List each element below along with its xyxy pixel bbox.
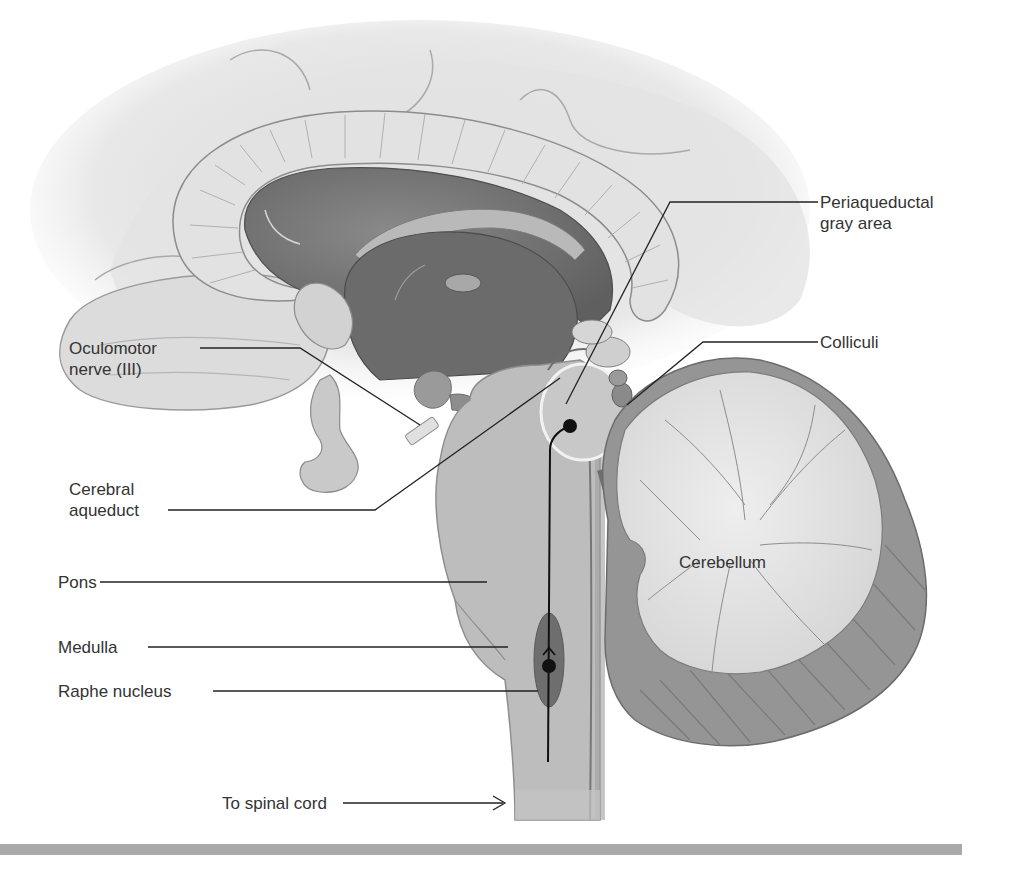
label-pons: Pons (58, 572, 97, 593)
label-spinal-cord-text: To spinal cord (222, 793, 327, 814)
label-cerebral-aqueduct: Cerebral aqueduct (69, 479, 139, 521)
label-periaqueductal-line2: gray area (820, 213, 933, 234)
label-colliculi: Colliculi (820, 332, 879, 353)
label-colliculi-text: Colliculi (820, 332, 879, 353)
label-raphe-nucleus: Raphe nucleus (58, 681, 171, 702)
label-oculomotor-line1: Oculomotor (69, 338, 157, 359)
label-cerebellum-text: Cerebellum (679, 552, 766, 573)
label-medulla: Medulla (58, 637, 118, 658)
label-pons-text: Pons (58, 572, 97, 593)
spinal-cord (515, 790, 600, 820)
oculomotor-nerve (405, 416, 440, 445)
label-cerebral-aqueduct-line2: aqueduct (69, 500, 139, 521)
label-raphe-text: Raphe nucleus (58, 681, 171, 702)
label-oculomotor-line2: nerve (III) (69, 359, 157, 380)
label-oculomotor-nerve: Oculomotor nerve (III) (69, 338, 157, 380)
bottom-divider-rule (0, 844, 962, 855)
label-cerebral-aqueduct-line1: Cerebral (69, 479, 139, 500)
label-periaqueductal-gray-area: Periaqueductal gray area (820, 192, 933, 234)
label-medulla-text: Medulla (58, 637, 118, 658)
brain-sagittal-diagram (0, 0, 1022, 879)
label-to-spinal-cord: To spinal cord (222, 793, 327, 814)
label-periaqueductal-line1: Periaqueductal (820, 192, 933, 213)
label-cerebellum: Cerebellum (679, 552, 766, 573)
